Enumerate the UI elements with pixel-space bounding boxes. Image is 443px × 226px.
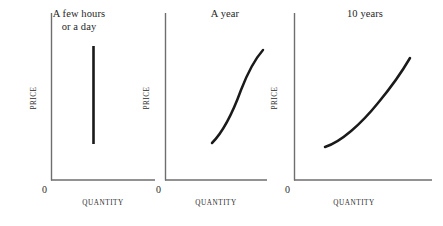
supply-elasticity-figure: A few hours or a day PRICE 0 QUANTITY A … bbox=[0, 0, 443, 226]
y-axis-label: PRICE bbox=[143, 82, 151, 114]
y-axis-label: PRICE bbox=[271, 82, 279, 114]
x-axis-label: QUANTITY bbox=[165, 199, 267, 207]
origin-label: 0 bbox=[156, 184, 161, 195]
supply-curve bbox=[325, 58, 410, 147]
supply-curve bbox=[212, 50, 263, 143]
panel-axes bbox=[275, 0, 443, 226]
origin-label: 0 bbox=[42, 184, 47, 195]
x-axis-label: QUANTITY bbox=[51, 199, 155, 207]
origin-label: 0 bbox=[285, 184, 290, 195]
panel-a-few-hours-or-a-day: A few hours or a day PRICE 0 QUANTITY bbox=[0, 0, 158, 226]
x-axis-label: QUANTITY bbox=[294, 199, 414, 207]
panel-10-years: 10 years PRICE 0 QUANTITY bbox=[275, 0, 443, 226]
y-axis-label: PRICE bbox=[30, 82, 38, 114]
panel-axes bbox=[0, 0, 158, 226]
